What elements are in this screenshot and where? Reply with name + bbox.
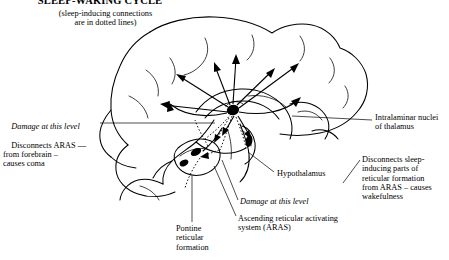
aras-radiating-arrows	[160, 54, 301, 139]
leader-disconnect-sleep	[343, 160, 360, 183]
leader-intralaminar	[292, 116, 372, 120]
figure-subtitle: (sleep-inducing connections are in dotte…	[18, 9, 193, 28]
annotation-damage-forebrain-body: Disconnects ARAS — from forebrain – caus…	[3, 141, 86, 169]
arrow-to-posterior-curve	[239, 97, 301, 114]
annotation-damage-forebrain: Damage at this level Disconnects ARAS — …	[3, 113, 86, 178]
figure-title: SLEEP-WAKING CYCLE	[0, 0, 200, 7]
annotation-intralaminar-nuclei: Intralaminar nuclei of thalamus	[375, 113, 438, 132]
leader-hypothalamus	[248, 152, 274, 172]
leader-damage-level-2	[222, 160, 238, 200]
arrow-to-parietal	[237, 68, 275, 105]
thalamus-hub	[225, 102, 243, 117]
brainstem-outline	[163, 120, 249, 184]
annotation-hypothalamus: Hypothalamus	[277, 169, 325, 178]
annotation-pontine-reticular-formation: Pontine reticular formation	[176, 224, 209, 252]
leader-lines	[100, 116, 372, 222]
leader-aras	[214, 166, 236, 216]
pontine-reticular-formation-shading	[174, 139, 220, 175]
corpus-callosum-and-ventricle	[196, 89, 338, 139]
annotation-damage-forebrain-emphasis: Damage at this level	[11, 122, 79, 131]
annotation-ascending-reticular-activating-system: Ascending reticular activating system (A…	[238, 214, 338, 233]
arrow-to-superior-frontal	[214, 62, 230, 105]
arrow-to-occipital	[239, 63, 299, 108]
arrow-to-vertex	[232, 54, 240, 104]
figure-canvas: SLEEP-WAKING CYCLE (sleep-inducing conne…	[0, 0, 449, 260]
annotation-damage-at-this-level: Damage at this level	[240, 197, 308, 206]
annotation-disconnect-sleep-inducing: Disconnects sleep- inducing parts of ret…	[362, 155, 432, 201]
